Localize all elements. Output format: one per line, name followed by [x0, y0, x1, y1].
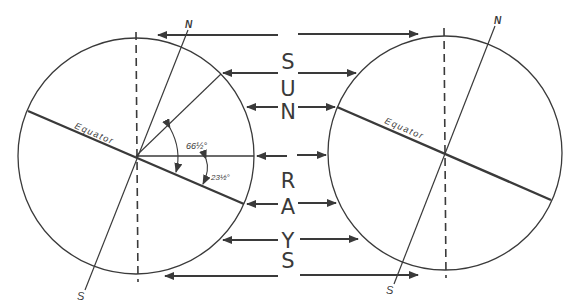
sun-letter-r: R: [281, 169, 296, 193]
earth-sun-rays-diagram: 66½° 23½° Equator N S Equator N S S: [0, 0, 577, 305]
left-polar-axis: [85, 30, 188, 290]
sun-rays-right: [297, 34, 418, 275]
angle-66-arc: [170, 128, 178, 172]
sun-letter-s: S: [281, 50, 294, 74]
left-north-label: N: [185, 19, 193, 30]
angle-23-arc: [203, 159, 207, 184]
sun-letter-n: N: [280, 100, 296, 124]
angle-23-label: 23½°: [210, 173, 231, 182]
sun-letter-u: U: [280, 77, 295, 101]
right-globe: Equator N S: [328, 15, 562, 296]
right-south-label: S: [386, 284, 394, 296]
angle-66-label: 66½°: [186, 141, 208, 151]
right-north-label: N: [494, 15, 502, 26]
left-66-ray-line: [136, 74, 221, 156]
sun-letter-a: A: [281, 195, 296, 219]
left-globe: 66½° 23½° Equator N S: [18, 19, 254, 302]
sun-rays-label: S U N R A Y S: [280, 50, 296, 273]
left-south-label: S: [77, 290, 85, 302]
sun-letter-s2: S: [281, 249, 294, 273]
